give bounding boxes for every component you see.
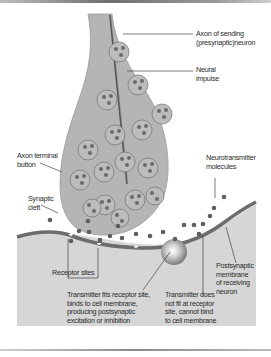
label-transmitter-not-fit: Transmitter does not fit at receptor sit…	[165, 291, 216, 325]
receptor-bound	[161, 239, 187, 265]
label-postsynaptic: Postsynaptic membrane of receiving neuro…	[216, 262, 254, 296]
label-transmitter-fits: Transmitter fits receptor site, binds to…	[67, 291, 150, 325]
label-synaptic-cleft: Synaptic cleft	[28, 195, 54, 212]
label-axon: Axon of sending (presynaptic)neuron	[196, 30, 255, 47]
label-receptor-sites: Receptor sites	[52, 269, 94, 278]
label-neurotransmitter: Neurotransmitter molecules	[206, 154, 256, 171]
label-neural-impulse: Neural impulse	[196, 66, 219, 83]
bottom-rule	[0, 349, 271, 351]
label-axon-terminal: Axon terminal button	[17, 152, 58, 169]
